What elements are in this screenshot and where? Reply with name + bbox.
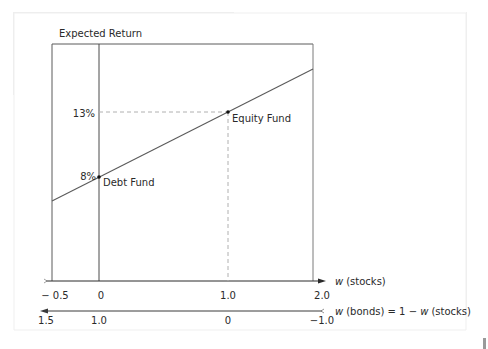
x2-tick-neg1: −1.0 <box>310 315 334 326</box>
x-axis-var: w(stocks) <box>335 276 386 287</box>
x-axis-secondary <box>40 309 324 314</box>
x2-axis-title: w(bonds) = 1 − w(stocks) <box>335 306 471 317</box>
x-tick-neg05: − 0.5 <box>41 290 68 301</box>
y-axis-title: Expected Return <box>59 28 142 39</box>
x2-tick-0: 0 <box>225 315 231 326</box>
chart: Expected Return 13% 8% Equity Fund Debt … <box>0 0 488 349</box>
plot-box <box>52 44 313 281</box>
x-tick-2: 2.0 <box>314 290 330 301</box>
x-tick-0: 0 <box>98 290 104 301</box>
y-tick-8: 8% <box>80 171 96 182</box>
debt-fund-label: Debt Fund <box>103 177 155 188</box>
x-axis <box>44 279 326 284</box>
equity-fund-label: Equity Fund <box>232 113 291 124</box>
y-tick-13: 13% <box>73 108 95 119</box>
x2-tick-10: 1.0 <box>91 315 107 326</box>
page-corner <box>483 338 486 349</box>
x2-tick-15: 1.5 <box>38 315 54 326</box>
debt-fund-point <box>97 175 101 179</box>
guide-lines <box>99 112 228 281</box>
x-tick-1: 1.0 <box>220 290 236 301</box>
equity-fund-point <box>226 110 230 114</box>
